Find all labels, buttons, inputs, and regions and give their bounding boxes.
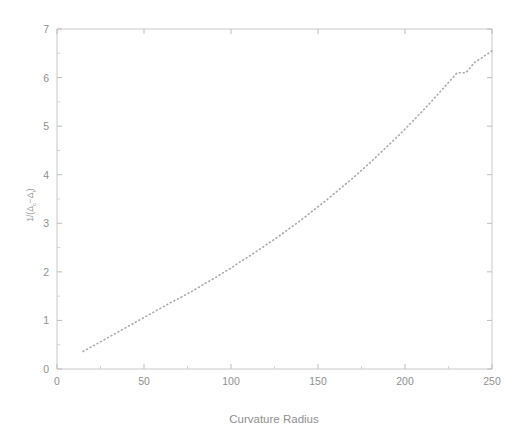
y-title-suffix: ): [25, 188, 35, 191]
figure-canvas: 01234567 050100150200250 Curvature Radiu…: [0, 0, 525, 446]
x-tick-label: 150: [309, 375, 327, 387]
y-axis-title: 1/(Δc−Δi): [25, 188, 37, 222]
x-tick-label: 250: [483, 375, 501, 387]
chart-plot: 01234567 050100150200250 Curvature Radiu…: [0, 0, 525, 446]
x-tick-label: 200: [396, 375, 414, 387]
data-series-group: [83, 51, 492, 352]
y-tick-label: 6: [43, 72, 49, 84]
series-line-inverse-gap: [83, 51, 492, 352]
x-tick-label: 50: [138, 375, 150, 387]
y-title-prefix: 1/(: [25, 212, 35, 222]
x-axis: 050100150200250: [54, 29, 501, 387]
y-tick-label: 1: [43, 314, 49, 326]
y-tick-label: 4: [43, 169, 49, 181]
y-tick-label: 2: [43, 266, 49, 278]
x-tick-label: 0: [54, 375, 60, 387]
y-tick-label: 0: [43, 363, 49, 375]
y-axis-title-group: 1/(Δc−Δi): [25, 188, 37, 222]
y-tick-label: 7: [43, 23, 49, 35]
y-tick-label: 3: [43, 217, 49, 229]
plot-frame: [57, 29, 492, 369]
x-axis-title: Curvature Radius: [229, 413, 319, 425]
y-axis: 01234567: [43, 23, 492, 375]
x-tick-label: 100: [222, 375, 240, 387]
y-tick-label: 5: [43, 120, 49, 132]
